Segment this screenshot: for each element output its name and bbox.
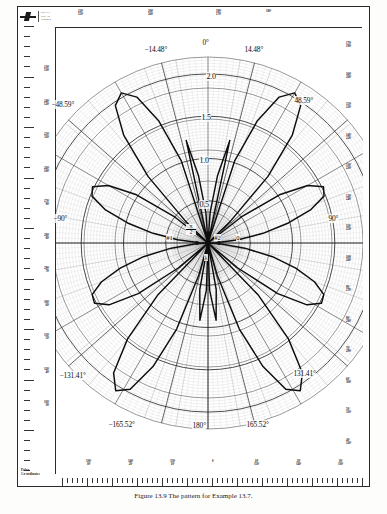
polar-plot-plate: 210°150°200°160°190°170°180°170°190°160°… — [55, 27, 362, 474]
null-angle-label-11: 180° — [192, 421, 206, 430]
edge-label-right-0: 170°190° — [346, 42, 351, 48]
edge-label-bottom-0: 330°30° — [86, 460, 91, 466]
edge-label-bottom-2: 350°10° — [170, 460, 175, 466]
figure-caption: Figure 13.9 The pattern for Example 13.7… — [0, 492, 387, 500]
title-block-line-3: FORM 2 — [41, 18, 51, 22]
edge-label-left-1: 240°120° — [44, 100, 49, 106]
edge-label-right-11: 60°300° — [346, 378, 351, 384]
edge-label-right-3: 140°220° — [346, 134, 351, 140]
edge-label-top-1: 200°160° — [148, 10, 153, 16]
null-angle-label-10: 165.52° — [246, 420, 269, 429]
title-block: GRAFT POLAR FORM 2 — [38, 11, 51, 22]
null-angle-label-9: −165.52° — [108, 420, 135, 429]
null-angle-label-0: 0° — [202, 38, 209, 47]
null-angle-label-8: 131.41° — [293, 369, 316, 378]
edge-label-left-6: 290°70° — [44, 267, 49, 273]
radial-tick-label-1-0: 1.0 — [199, 156, 209, 165]
edge-label-left-2: 250°110° — [44, 133, 49, 139]
edge-label-right-10: 70°290° — [346, 347, 351, 353]
radial-tick-label-0-5: 0.5 — [199, 200, 209, 209]
spacing-denominator: 2 — [186, 230, 196, 235]
edge-label-left-3: 260°100° — [44, 167, 49, 173]
edge-label-left-5: 280°80° — [44, 234, 49, 240]
null-angle-label-6: 90° — [328, 214, 339, 223]
null-angle-label-4: 48.59° — [294, 96, 314, 105]
sheet-header: GRAFT POLAR FORM 2 — [20, 9, 80, 24]
ruler-left — [24, 26, 35, 474]
null-angle-label-3: −48.59° — [51, 100, 75, 109]
edge-label-left-7: 300°60° — [44, 301, 49, 307]
edge-label-left-4: 270°90° — [44, 200, 49, 206]
phase-label-zero: 0 — [236, 234, 240, 241]
publisher-logo-icon — [20, 12, 36, 22]
edge-label-bottom-4: 10°350° — [254, 460, 259, 466]
edge-label-right-1: 160°200° — [346, 73, 351, 79]
edge-label-top-0: 210°150° — [78, 10, 83, 16]
ruler-bottom — [62, 478, 362, 487]
edge-label-left-0: 230°130° — [44, 66, 49, 72]
edge-label-bottom-5: 20°340° — [296, 460, 301, 466]
edge-label-left-9: 320°40° — [44, 368, 49, 374]
null-angle-label-5: −90° — [53, 214, 68, 223]
element-label-2: #2 — [214, 234, 221, 241]
edge-label-right-9: 80°280° — [346, 317, 351, 323]
wavelength-label: λ — [204, 254, 208, 261]
edge-label-right-2: 150°210° — [346, 103, 351, 109]
edge-label-top-2: 190°170° — [216, 10, 221, 16]
edge-label-right-8: 90°270° — [346, 286, 351, 292]
edge-label-left-8: 310°50° — [44, 334, 49, 340]
null-angle-label-1: −14.48° — [144, 45, 168, 54]
element-label-1: #1 — [166, 234, 173, 241]
edge-label-top-3: 180° — [266, 10, 271, 13]
null-angle-label-2: 14.48° — [244, 45, 264, 54]
edge-label-right-13: 40°320° — [346, 439, 351, 445]
radial-tick-label-2-0: 2.0 — [206, 72, 216, 81]
element-spacing-fraction: π2 — [186, 224, 196, 235]
edge-label-right-12: 50°310° — [346, 408, 351, 414]
edge-label-right-5: 120°240° — [346, 195, 351, 201]
edge-label-right-4: 130°230° — [346, 164, 351, 170]
edge-label-bottom-6: 30°330° — [338, 460, 343, 466]
radial-tick-label-1-5: 1.5 — [201, 113, 211, 122]
edge-label-right-6: 110°250° — [346, 225, 351, 231]
edge-label-bottom-3: 0 — [212, 460, 213, 463]
null-angle-label-7: −131.41° — [59, 371, 86, 380]
edge-label-bottom-1: 340°20° — [128, 460, 133, 466]
edge-label-right-7: 100°260° — [346, 256, 351, 262]
polar-plot-svg — [56, 28, 363, 475]
polar-chart-sheet: GRAFT POLAR FORM 2 Polar Co-ordinates 21… — [0, 0, 387, 514]
edge-label-left-10: 330°30° — [44, 401, 49, 407]
